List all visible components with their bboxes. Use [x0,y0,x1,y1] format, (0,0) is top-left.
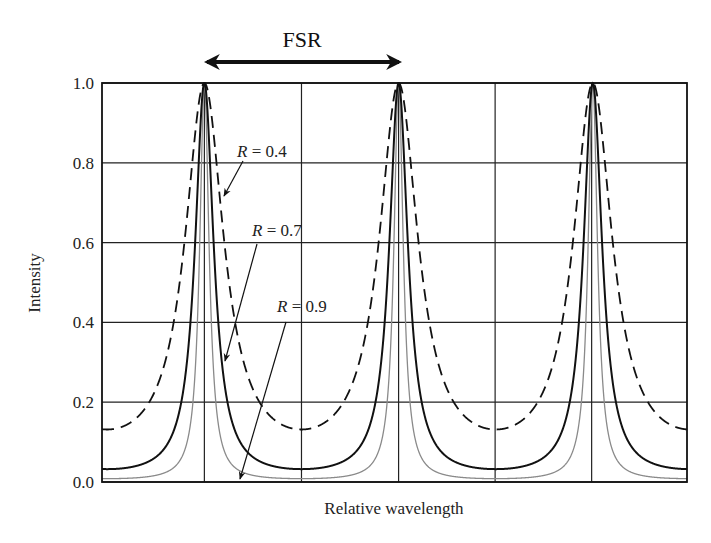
y-tick-label: 0.2 [73,393,94,412]
annotation-arrow-r09 [240,322,286,479]
y-axis-label: Intensity [25,253,44,313]
curve-07 [102,83,687,469]
y-tick-label: 0.4 [73,313,95,332]
svg-text:R = 0.9: R = 0.9 [276,297,327,316]
curves [102,83,687,479]
y-tick-label: 0.8 [73,154,94,173]
annotation-arrow-r07 [225,244,257,361]
chart-title-fsr: FSR [282,27,321,52]
svg-text:R = 0.7: R = 0.7 [251,221,302,240]
y-tick-label: 1.0 [73,74,94,93]
y-axis-ticks: 0.00.20.40.60.81.0 [73,74,95,492]
svg-text:R = 0.4: R = 0.4 [236,142,287,161]
y-tick-label: 0.0 [73,473,94,492]
annotation-arrow-r04 [224,161,243,196]
chart: 0.00.20.40.60.81.0 Intensity Relative wa… [0,0,711,543]
x-axis-label: Relative wavelength [324,499,464,518]
annotation-r04: R = 0.4 [224,142,287,196]
y-tick-label: 0.6 [73,234,94,253]
